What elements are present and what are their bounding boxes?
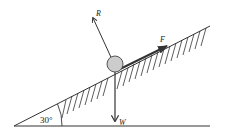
- friction-force-label: F: [159, 35, 165, 44]
- surface-hatching: [62, 28, 206, 118]
- inclined-plane-diagram: 30° R F W: [0, 0, 229, 139]
- incline-line: [14, 26, 210, 126]
- friction-force-arrow: [118, 46, 167, 70]
- reaction-force-label: R: [95, 9, 101, 18]
- angle-arc: [58, 104, 63, 126]
- particle: [107, 56, 123, 72]
- angle-label: 30°: [40, 115, 53, 125]
